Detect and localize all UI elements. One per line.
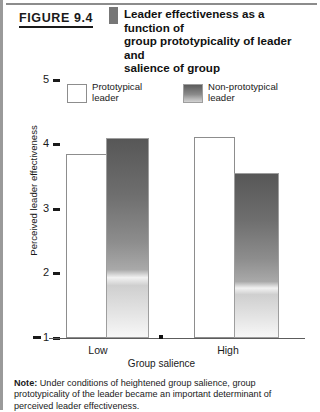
x-axis-line: [49, 338, 305, 339]
x-axis-title: Group salience: [3, 358, 320, 369]
y-tick-2: 2: [23, 266, 49, 278]
x-tick-label-high: High: [203, 344, 253, 356]
figure-note-text: Under conditions of heightened group sal…: [14, 378, 271, 411]
y-tick-4: 4: [23, 137, 49, 149]
y-tick-3: 3: [23, 202, 49, 214]
figure-note-prefix: Note:: [14, 378, 37, 388]
bar-high-non-prototypical: [234, 173, 279, 338]
legend-label-non-prototypical: Non-prototypical leader: [208, 82, 278, 103]
legend-label-prototypical: Prototypical leader: [92, 82, 142, 103]
chart-plot-area: Perceived leader effectiveness 5 4 3 2 1…: [3, 0, 320, 410]
gray-gradient-square-icon: [183, 84, 203, 103]
x-tick-label-low: Low: [73, 344, 123, 356]
x-axis-origin-tick: [33, 336, 41, 339]
bar-low-non-prototypical: [106, 138, 149, 338]
y-tick-5: 5: [23, 73, 49, 85]
bar-low-prototypical: [66, 154, 107, 338]
x-axis-mid-marker: [159, 335, 163, 339]
bar-high-prototypical: [194, 137, 235, 338]
figure-note: Note: Under conditions of heightened gro…: [14, 378, 311, 412]
white-square-icon: [67, 84, 87, 103]
